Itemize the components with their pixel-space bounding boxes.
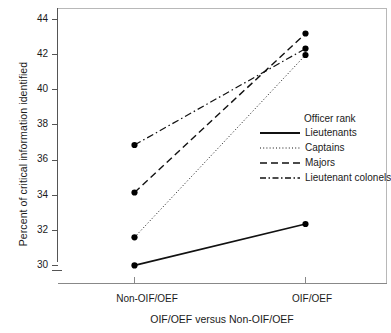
legend-key-solid-icon bbox=[258, 127, 302, 139]
legend-key-dashdot-icon bbox=[258, 172, 302, 184]
legend-label: Majors bbox=[302, 157, 335, 168]
x-axis bbox=[58, 277, 388, 284]
legend-item-lieutenants: Lieutenants bbox=[258, 125, 390, 140]
marker-lieutenants-oif bbox=[302, 221, 308, 227]
marker-captains-oif bbox=[302, 52, 308, 58]
legend-label: Lieutenant colonels bbox=[302, 172, 391, 183]
series-lieutenants bbox=[135, 224, 306, 265]
marker-lieutenants-non-oif bbox=[131, 262, 137, 268]
legend-item-captains: Captains bbox=[258, 140, 390, 155]
legend-key-dashed-icon bbox=[258, 157, 302, 169]
legend-label: Lieutenants bbox=[302, 127, 357, 138]
legend: Officer rank Lieutenants Captains Majors… bbox=[258, 113, 390, 185]
marker-lieutenant-colonels-non-oif bbox=[131, 142, 137, 148]
y-axis bbox=[52, 8, 62, 270]
legend-title: Officer rank bbox=[304, 113, 390, 124]
line-lieutenants bbox=[135, 224, 306, 265]
marker-majors-non-oif bbox=[131, 189, 137, 195]
legend-label: Captains bbox=[302, 142, 344, 153]
legend-item-lieutenant-colonels: Lieutenant colonels bbox=[258, 170, 390, 185]
marker-lieutenant-colonels-oif bbox=[302, 46, 308, 52]
marker-captains-non-oif bbox=[131, 234, 137, 240]
marker-majors-oif bbox=[302, 30, 308, 36]
legend-key-dotted-icon bbox=[258, 142, 302, 154]
chart-root: Percent of critical information identifi… bbox=[0, 0, 391, 333]
legend-item-majors: Majors bbox=[258, 155, 390, 170]
